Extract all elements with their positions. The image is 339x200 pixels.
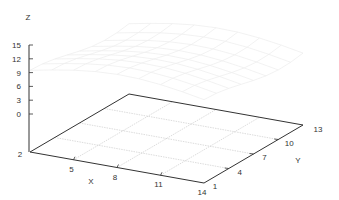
x-tick-label: 5 — [69, 165, 74, 174]
tick-labels: 0369121525811141471013 — [12, 41, 323, 197]
chart-area: 0369121525811141471013 Z X Y — [0, 0, 339, 200]
surface-mesh — [30, 23, 303, 99]
z-axis-label: Z — [26, 13, 31, 22]
y-tick-label: 7 — [262, 153, 267, 162]
y-tick-label: 13 — [314, 125, 323, 134]
z-tick-label: 12 — [12, 55, 21, 64]
z-tick-label: 0 — [17, 110, 22, 119]
surface-plot-3d: 0369121525811141471013 Z X Y — [0, 0, 339, 200]
y-tick-label: 10 — [285, 139, 294, 148]
y-tick-label: 4 — [238, 168, 243, 177]
tick-marks — [29, 45, 278, 175]
x-tick-label: 2 — [18, 150, 23, 159]
x-axis-label: X — [88, 177, 94, 186]
z-tick-label: 3 — [17, 96, 22, 105]
axes — [29, 45, 303, 183]
z-tick-label: 15 — [12, 41, 21, 50]
y-axis-label: Y — [295, 156, 301, 165]
y-tick-label: 1 — [213, 182, 218, 191]
z-tick-label: 9 — [17, 69, 22, 78]
x-tick-label: 8 — [113, 173, 118, 182]
floor-grid — [55, 102, 279, 176]
z-tick-label: 6 — [17, 82, 22, 91]
x-tick-label: 11 — [154, 180, 163, 189]
x-tick-label: 14 — [198, 188, 207, 197]
